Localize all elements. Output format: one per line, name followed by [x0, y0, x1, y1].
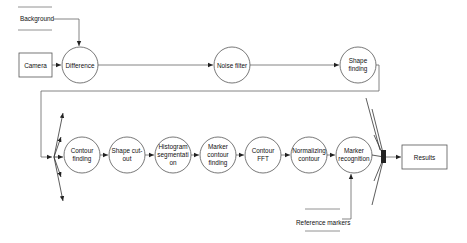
process-shape-finding: Shape finding [340, 47, 376, 83]
marker-contour-label-2: contour [207, 151, 229, 158]
shape-finding-label-2: finding [349, 65, 368, 73]
contour-finding-label-1: Contour [71, 147, 95, 154]
process-normalizing-contour: Normalizing contour [291, 137, 327, 173]
contour-finding-label-2: finding [73, 155, 92, 163]
process-difference: Difference [62, 47, 98, 83]
shape-cut-out-label-1: Shape cut- [112, 147, 143, 155]
junction-bar [381, 150, 386, 163]
contour-fft-label-2: FFT [257, 155, 269, 162]
shape-finding-label-1: Shape [349, 57, 368, 65]
marker-contour-label-1: Marker [208, 143, 229, 150]
contour-fft-label-1: Contour [252, 147, 276, 154]
camera-entity: Camera [19, 53, 52, 77]
marker-recognition-label-2: recognition [338, 155, 370, 163]
reference-markers-label: Reference markers [296, 219, 350, 226]
histogram-label-1: Histogram [158, 143, 187, 151]
process-noise-filter: Noise filter [214, 47, 250, 83]
normalizing-label-2: contour [298, 155, 320, 162]
shape-cut-out-label-2: out [123, 155, 132, 162]
edge-background-to-difference [53, 19, 79, 46]
process-contour-finding: Contour finding [64, 137, 100, 173]
normalizing-label-1: Normalizing [292, 147, 326, 155]
background-label: Background [20, 15, 55, 23]
background-data-store: Background [18, 7, 55, 30]
marker-recognition-label-1: Marker [344, 147, 365, 154]
process-marker-contour-finding: Marker contour finding [200, 137, 236, 173]
marker-contour-label-3: finding [209, 159, 228, 167]
process-marker-recognition: Marker recognition [336, 137, 372, 173]
camera-label: Camera [24, 62, 47, 69]
edge-reference-to-recognition [342, 174, 351, 219]
fan-out [54, 113, 63, 201]
histogram-label-3: on [169, 159, 177, 166]
process-contour-fft: Contour FFT [245, 137, 281, 173]
reference-markers-data-store: Reference markers [296, 209, 350, 231]
results-entity: Results [402, 145, 447, 169]
noise-filter-label: Noise filter [217, 62, 248, 69]
process-histogram-segmentation: Histogram segmentati on [155, 137, 191, 173]
results-label: Results [414, 154, 435, 161]
histogram-label-2: segmentati [157, 151, 188, 159]
process-shape-cut-out: Shape cut- out [109, 137, 145, 173]
difference-label: Difference [65, 62, 94, 69]
data-flow-diagram: Background Camera Difference Noise filte… [0, 0, 467, 243]
